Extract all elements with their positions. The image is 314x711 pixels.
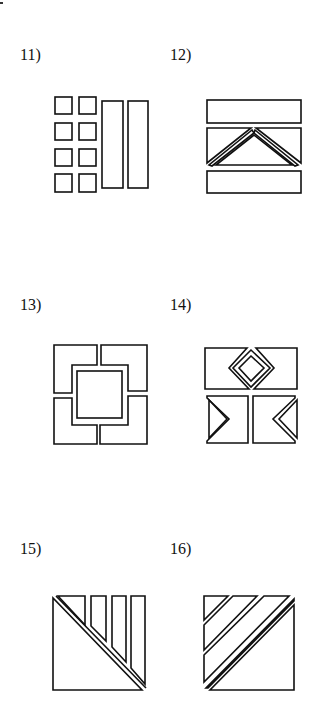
l-piece-top-left [54,345,97,393]
l-piece-bottom-right [100,396,147,444]
small-square [55,149,72,166]
diagonal-strip-1 [204,596,257,650]
tall-rectangle [102,101,123,188]
diagonal-strip-2 [204,596,289,682]
small-square [79,123,96,140]
left-notch-triangle [209,400,227,438]
center-square [77,371,122,418]
small-square [79,149,96,166]
chevron-right-strip [254,130,298,166]
tall-rectangle [128,101,148,188]
figure-13 [54,345,147,444]
small-square [55,97,72,114]
lower-triangle [53,598,142,690]
right-corner-piece [256,128,301,163]
large-triangle [210,605,294,690]
left-corner-piece [207,128,251,163]
bottom-bar [207,171,301,193]
diagonal-edge [56,596,146,688]
figure-16 [204,596,294,690]
top-right-block [254,348,297,389]
strip-2 [112,596,126,662]
figure-12 [207,100,301,193]
l-piece-bottom-left [54,398,97,444]
small-square [55,174,72,192]
figures-canvas [0,0,314,711]
l-piece-top-right [101,345,147,391]
small-square [79,97,96,114]
top-bar [207,100,301,123]
figure-11 [55,97,148,192]
diagonal-strip-3 [206,599,294,688]
small-square [55,123,72,140]
strip-3 [131,596,145,684]
chevron-left-strip [209,130,254,166]
top-left-block [205,348,249,389]
figure-15 [53,596,146,690]
figure-14 [205,348,297,443]
corner-triangle [204,596,228,620]
small-square [79,174,96,192]
bottom-right-block [253,396,295,443]
